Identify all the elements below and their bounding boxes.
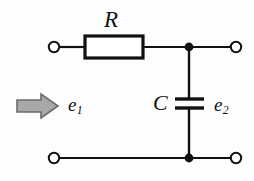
input-voltage-subscript: 1 bbox=[77, 104, 83, 117]
filled-junction-dot-icon-bottom bbox=[185, 154, 194, 163]
output-voltage-symbol: e bbox=[214, 94, 222, 115]
capacitor-plates-icon bbox=[175, 99, 204, 108]
output-voltage-subscript: 2 bbox=[223, 104, 229, 117]
circuit-schematic-svg bbox=[0, 0, 254, 181]
open-terminal-circle-icon-output-top[interactable] bbox=[231, 42, 241, 52]
filled-junction-dot-icon-top bbox=[185, 43, 194, 52]
open-terminal-circle-icon-input-bottom[interactable] bbox=[49, 153, 59, 163]
input-voltage-symbol: e bbox=[68, 94, 76, 115]
capacitor-label: C bbox=[153, 92, 168, 114]
open-terminal-circle-icon-output-bottom[interactable] bbox=[231, 153, 241, 163]
resistor-box-icon bbox=[85, 36, 143, 58]
output-voltage-label: e2 bbox=[214, 95, 228, 114]
open-terminal-circle-icon-input-top[interactable] bbox=[49, 42, 59, 52]
right-arrow-icon bbox=[17, 94, 58, 118]
circuit-diagram: R C e1 e2 bbox=[0, 0, 254, 181]
input-voltage-label: e1 bbox=[68, 95, 82, 114]
resistor-label: R bbox=[104, 8, 118, 31]
